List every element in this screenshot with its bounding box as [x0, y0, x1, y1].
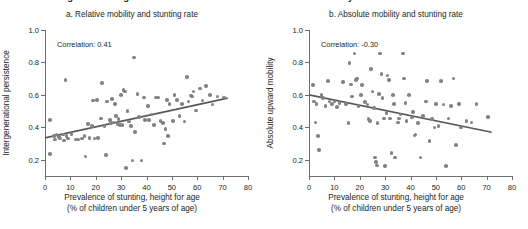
panel-a-data-point [66, 137, 70, 141]
panel-b-data-point [390, 151, 394, 155]
panel-b-x-axis-label: Prevalence of stunting, height for age (… [264, 192, 528, 214]
panel-b-y-axis-label: Absolute upward mobility [266, 30, 278, 176]
panel-b-data-point [424, 100, 428, 104]
panel-a-x-tick [70, 176, 71, 180]
panel-b-data-point [324, 104, 328, 108]
panel-a-data-point [192, 90, 196, 94]
panel-b-data-point [470, 121, 474, 125]
panel-a-trendline [45, 30, 248, 176]
panel-a-data-point [133, 130, 137, 134]
panel-b-data-point [383, 164, 387, 168]
panel-a-y-tick-label: 0.6 [28, 90, 39, 99]
panel-b-data-point [457, 102, 461, 106]
panel-b-data-point [447, 117, 451, 121]
panel-a-x-tick [96, 176, 97, 180]
panel-a-data-point [132, 56, 136, 60]
panel-b-data-point [405, 119, 409, 123]
panel-b-data-point [326, 79, 330, 83]
panel-a-data-point [185, 75, 189, 79]
panel-b-x-tick [385, 176, 386, 180]
panel-b-data-point [341, 80, 345, 84]
panel-a-relative-mobility: a. Relative mobility and stunting rate I… [0, 0, 264, 229]
panel-a-data-point [95, 98, 99, 102]
panel-b-data-point [368, 119, 372, 123]
panel-b-y-tick [305, 127, 309, 128]
panel-a-data-point [162, 142, 166, 146]
panel-b-data-point [452, 77, 456, 81]
panel-b-data-point [382, 117, 386, 121]
panel-a-title: a. Relative mobility and stunting rate [0, 10, 264, 19]
panel-a-data-point [173, 93, 177, 97]
panel-b-data-point [347, 121, 351, 125]
panel-b-data-point [411, 110, 415, 114]
panel-b-data-point [486, 115, 490, 119]
panel-a-data-point [121, 123, 125, 127]
panel-b-data-point [366, 103, 370, 107]
panel-a-data-point [161, 121, 165, 125]
panel-b-data-point [316, 134, 320, 138]
panel-b-x-tick [512, 176, 513, 180]
panel-b-data-point [475, 102, 479, 106]
panel-b-y-tick-label: 0.8 [292, 58, 303, 67]
panel-a-data-point [104, 153, 108, 157]
panel-b-data-point [392, 102, 396, 106]
panel-b-data-point [399, 113, 403, 117]
panel-b-data-point [465, 119, 469, 123]
panel-a-data-point [208, 93, 212, 97]
panel-a-data-point [140, 159, 144, 163]
panel-a-data-point [150, 113, 154, 117]
panel-b-data-point [410, 116, 414, 120]
panel-a-data-point [119, 93, 123, 97]
panel-a-data-point [103, 124, 107, 128]
panel-b-data-point [314, 121, 318, 125]
panel-b-y-tick [305, 30, 309, 31]
panel-b-data-point [371, 90, 375, 94]
panel-a-y-tick [41, 160, 45, 161]
panel-a-x-tick-label: 0 [43, 183, 47, 192]
panel-b-data-point [386, 74, 390, 78]
panel-a-x-tick-label: 40 [142, 183, 150, 192]
panel-a-data-point [194, 109, 198, 113]
panel-a-data-point [146, 104, 150, 108]
panel-b-data-point [433, 126, 437, 130]
panel-a-y-tick-label: 0.2 [28, 155, 39, 164]
panel-b-data-point [338, 101, 342, 105]
panel-a-plot-area: Correlation: 0.41 0.20.40.60.81.00102030… [45, 30, 248, 176]
panel-b-x-tick [360, 176, 361, 180]
panel-a-data-point [175, 98, 179, 102]
panel-b-x-tick [411, 176, 412, 180]
panel-b-data-point [372, 106, 376, 110]
panel-b-x-tick [334, 176, 335, 180]
panel-a-y-axis-line [45, 30, 46, 176]
panel-b-data-point [333, 100, 337, 104]
panel-b-data-point [387, 78, 391, 82]
panel-a-data-point [136, 92, 140, 96]
panel-a-data-point [183, 120, 187, 124]
panel-a-data-point [127, 120, 131, 124]
panel-a-x-tick-label: 50 [168, 183, 176, 192]
panel-a-x-tick [197, 176, 198, 180]
panel-a-data-point [204, 84, 208, 88]
panel-b-data-point [419, 156, 423, 160]
panel-b-data-point [376, 121, 380, 125]
panel-b-data-point [357, 104, 361, 108]
panel-b-data-point [393, 156, 397, 160]
panel-b-data-point [391, 93, 395, 97]
panel-a-data-point [156, 96, 160, 100]
panel-b-x-axis-label-line1: Prevalence of stunting, height for age [264, 192, 528, 203]
panel-b-y-tick-label: 1.0 [292, 26, 303, 35]
panel-a-data-point [198, 87, 202, 91]
panel-b-x-tick-label: 60 [457, 183, 465, 192]
panel-b-data-point [311, 83, 315, 87]
panel-b-x-tick [487, 176, 488, 180]
panel-b-data-point [459, 126, 463, 130]
panel-b-x-tick [309, 176, 310, 180]
panel-b-data-point [355, 77, 359, 81]
panel-a-x-tick-label: 70 [218, 183, 226, 192]
panel-b-data-point [321, 96, 325, 100]
panel-b-x-tick [461, 176, 462, 180]
panel-b-x-tick-label: 80 [508, 183, 516, 192]
panel-a-x-tick-label: 30 [117, 183, 125, 192]
panel-b-data-point [442, 103, 446, 107]
panel-a-correlation-annotation: Correlation: 0.41 [57, 40, 112, 49]
